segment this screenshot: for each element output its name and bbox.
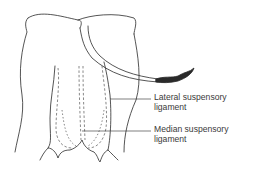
udder-diagram: Lateral suspensory ligament Median suspe…	[0, 0, 270, 169]
udder-illustration	[0, 0, 270, 169]
tail-inner	[88, 26, 158, 79]
lateral-suspensory-ligament-label: Lateral suspensory ligament	[154, 92, 227, 112]
inner-contour-left	[62, 110, 76, 146]
tail-outer	[80, 28, 158, 82]
label-line-2: ligament	[154, 134, 229, 144]
lateral-ligament-left	[56, 68, 72, 148]
median-ligament	[79, 66, 81, 140]
label-line-1: Median suspensory	[154, 124, 229, 134]
right-hindquarter-outline	[124, 34, 139, 152]
left-leg-line	[40, 148, 48, 160]
label-line-1: Lateral suspensory	[154, 92, 227, 102]
inner-contour-right	[88, 110, 104, 146]
median-suspensory-ligament-label: Median suspensory ligament	[154, 124, 229, 144]
tail-switch	[156, 68, 194, 83]
left-hindquarter-outline	[15, 18, 28, 152]
right-leg-line	[108, 150, 118, 160]
lateral-ligament-right	[88, 66, 107, 148]
back-outline	[28, 14, 136, 34]
median-ligament-2	[83, 66, 85, 140]
label-line-2: ligament	[154, 102, 227, 112]
